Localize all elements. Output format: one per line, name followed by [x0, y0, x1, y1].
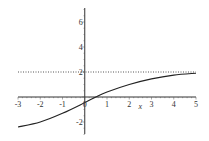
y-tick-label: 4: [79, 43, 83, 52]
x-tick-label: 0: [83, 100, 87, 109]
x-tick-label: 1: [105, 100, 109, 109]
x-tick-label: -2: [37, 100, 44, 109]
axes: [18, 8, 196, 135]
x-tick-label: 2: [127, 100, 131, 109]
y-tick-label: 2: [79, 68, 83, 77]
x-tick-label: -1: [59, 100, 66, 109]
x-tick-label: 5: [194, 100, 198, 109]
x-axis-label: x: [138, 102, 143, 111]
y-tick-label: 6: [79, 18, 83, 27]
x-tick-label: 4: [172, 100, 176, 109]
x-tick-label: 3: [150, 100, 154, 109]
line-chart: -3-2-1012345-2246x: [0, 0, 209, 141]
x-tick-label: -3: [15, 100, 22, 109]
y-tick-label: -2: [76, 118, 83, 127]
